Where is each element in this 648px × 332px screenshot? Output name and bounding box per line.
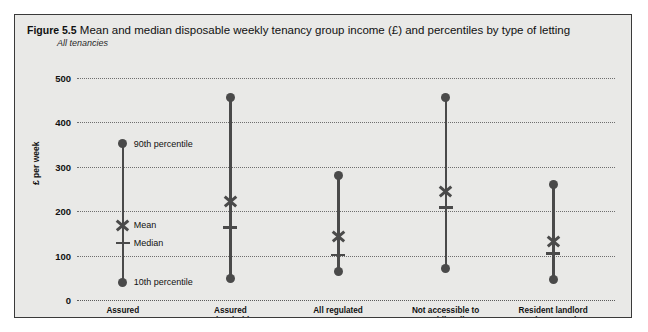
p90-marker	[441, 93, 450, 102]
annotation-1: 90th percentile	[134, 139, 193, 149]
gridline-0	[77, 300, 615, 301]
range-line	[445, 97, 448, 269]
median-marker	[223, 226, 237, 229]
range-line	[552, 185, 555, 280]
mean-marker	[331, 229, 345, 243]
y-tick-label-400: 400	[55, 117, 71, 128]
plot-area: 90th percentileMeanMedian10th percentile	[77, 78, 615, 300]
p10-marker	[549, 275, 558, 284]
y-tick-label-200: 200	[55, 206, 71, 217]
mean-marker	[223, 194, 237, 208]
mean-marker	[546, 234, 560, 248]
range-line	[122, 144, 125, 283]
p90-marker	[334, 171, 343, 180]
annotation-2: Mean	[134, 220, 157, 230]
p90-marker	[226, 93, 235, 102]
p10-marker	[334, 267, 343, 276]
median-marker	[331, 254, 345, 257]
median-marker	[116, 242, 130, 245]
x-label-5: Resident landlord and no security	[478, 306, 628, 318]
mean-marker	[116, 218, 130, 232]
p90-marker	[549, 180, 558, 189]
figure-panel: Figure 5.5 Mean and median disposable we…	[14, 14, 632, 318]
p10-marker	[441, 264, 450, 273]
annotation-4: 10th percentile	[134, 277, 193, 287]
y-tick-label-100: 100	[55, 250, 71, 261]
range-line	[337, 175, 340, 271]
y-tick-label-0: 0	[66, 295, 71, 306]
gridline-300	[77, 167, 615, 168]
y-tick-label-300: 300	[55, 161, 71, 172]
gridline-200	[77, 211, 615, 212]
median-marker	[439, 206, 453, 209]
p10-marker	[118, 278, 127, 287]
gridline-100	[77, 256, 615, 257]
y-tick-label-500: 500	[55, 73, 71, 84]
p10-marker	[226, 274, 235, 283]
gridline-400	[77, 122, 615, 123]
p90-marker	[118, 139, 127, 148]
median-marker	[546, 252, 560, 255]
chart-plot: £ per week 0100200300400500 90th percent…	[15, 15, 632, 318]
y-axis-label: £ per week	[31, 142, 41, 185]
range-line	[229, 97, 232, 279]
annotation-3: Median	[134, 238, 164, 248]
mean-marker	[439, 184, 453, 198]
gridline-500	[77, 78, 615, 79]
